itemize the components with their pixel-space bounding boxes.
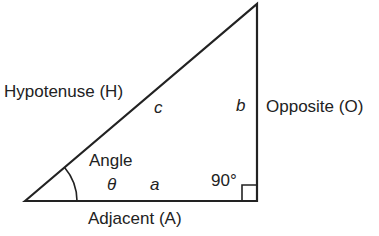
side-c-label: c [154,99,163,116]
angle-arc [65,167,77,201]
theta-label: θ [107,176,116,193]
side-b-label: b [236,97,245,114]
right-angle-label: 90° [211,172,237,189]
angle-label: Angle [89,152,132,169]
side-a-label: a [150,176,159,193]
adjacent-label: Adjacent (A) [88,210,182,227]
opposite-label: Opposite (O) [266,98,363,115]
right-triangle-diagram [0,0,379,236]
right-angle-marker [242,185,257,201]
hypotenuse-label: Hypotenuse (H) [4,83,123,100]
